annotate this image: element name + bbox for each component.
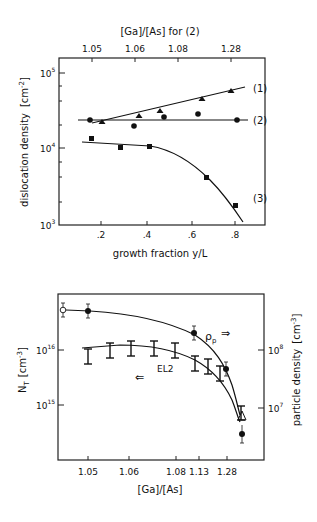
bottom-x-axis-ticks	[88, 456, 227, 460]
x-axis-ticks	[101, 221, 235, 225]
x-tick-label: 1.05	[78, 467, 98, 477]
el2-error-bars	[84, 341, 245, 420]
x-axis-label: growth fraction y/L	[113, 248, 208, 259]
top-tick-label: 1.06	[125, 44, 145, 54]
top-chart: [Ga]/[As] for (2) 1.05 1.06 1.08 1.28	[18, 26, 267, 259]
x-tick-label: 1.08	[166, 467, 186, 477]
el2-label: EL2	[157, 364, 173, 374]
right-tick-label: 107	[268, 401, 283, 414]
top-plot-frame	[59, 58, 265, 225]
x-tick-label: 1.06	[119, 467, 139, 477]
x-tick-label: 1.13	[189, 467, 209, 477]
left-y-axis-label: NT[cm-3]	[16, 347, 31, 393]
top-tick-label: 1.05	[82, 44, 102, 54]
right-axis-ticks	[258, 350, 264, 408]
bottom-chart: 1016 1015 108 107 NT[cm-3] particle dens…	[16, 294, 302, 495]
top-tick-label: 1.08	[168, 44, 188, 54]
series-2-label: (2)	[253, 115, 267, 126]
series-3-label: (3)	[253, 193, 267, 204]
series-rho-p: ρp ⇒	[60, 303, 245, 443]
x-axis-label: [Ga]/[As]	[138, 484, 183, 495]
series-2: (2)	[78, 111, 267, 129]
y-tick-label: 103	[40, 218, 55, 231]
series-1: (1)	[92, 83, 267, 124]
y-tick-label: 104	[40, 141, 55, 154]
series-el2: EL2 ⇐	[82, 341, 246, 422]
left-tick-label: 1015	[36, 398, 55, 411]
y-axis-ticks	[59, 73, 65, 202]
y-axis-label: dislocation density[cm-2]	[18, 77, 30, 207]
figure: [Ga]/[As] for (2) 1.05 1.06 1.08 1.28	[0, 0, 317, 522]
x-tick-label: .2	[97, 230, 106, 240]
rho-p-label: ρp	[205, 330, 217, 345]
x-tick-label: .8	[231, 230, 240, 240]
top-axis-label: [Ga]/[As] for (2)	[120, 26, 199, 37]
x-tick-label: 1.28	[217, 467, 237, 477]
top-tick-label: 1.28	[221, 44, 241, 54]
series-3: (3)	[82, 136, 267, 222]
right-y-axis-label: particle density[cm-3]	[290, 314, 302, 427]
series-1-label: (1)	[253, 83, 267, 94]
left-tick-label: 1016	[36, 343, 55, 356]
x-tick-label: .6	[188, 230, 197, 240]
x-tick-label: .4	[143, 230, 152, 240]
left-axis-ticks	[58, 350, 64, 405]
right-tick-label: 108	[268, 343, 283, 356]
bottom-plot-frame	[58, 294, 264, 460]
arrow-right-icon: ⇒	[221, 327, 230, 340]
y-tick-label: 105	[40, 66, 55, 79]
arrow-left-icon: ⇐	[135, 371, 144, 384]
